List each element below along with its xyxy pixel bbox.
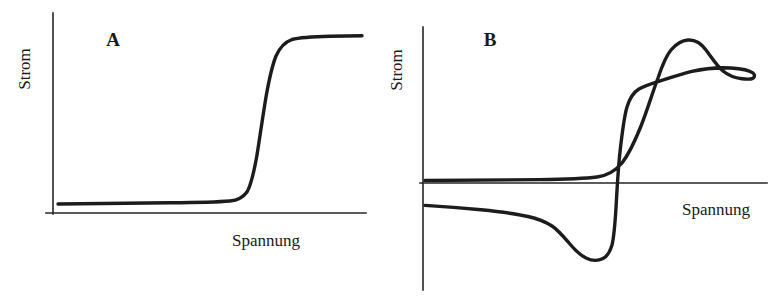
panel-b: B Spannung Strom [389,0,778,300]
panel-b-letter: B [484,29,497,50]
panel-a: A Spannung Strom [0,0,389,300]
panel-a-sigmoid-curve [58,36,362,204]
panel-a-x-axis-label: Spannung [232,231,301,250]
panel-a-letter: A [106,29,120,50]
panel-b-x-axis-label: Spannung [682,200,751,219]
panel-a-y-axis-label: Strom [15,48,34,90]
panel-b-cv-curve [425,40,755,260]
panel-b-y-axis-label: Strom [389,49,406,91]
voltammetry-figure: A Spannung Strom B Spannung Strom [0,0,778,300]
